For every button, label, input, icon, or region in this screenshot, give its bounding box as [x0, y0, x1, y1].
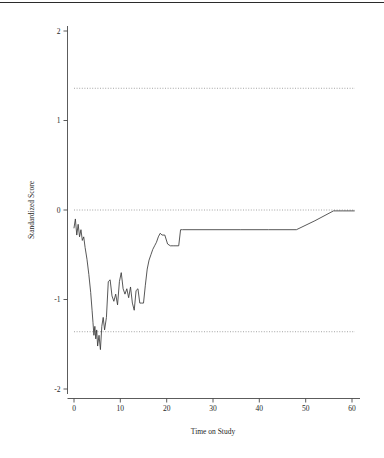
standardized-score-line [74, 211, 354, 350]
y-tick-label-1: 1 [57, 116, 61, 125]
x-tick-label-10: 10 [117, 404, 125, 413]
y-axis-group: 2 1 0 -1 -2 [54, 26, 67, 394]
x-axis-title: Time on Study [191, 427, 236, 436]
x-axis-group: 0 10 20 30 40 50 60 [68, 399, 361, 414]
x-tick-label-60: 60 [348, 404, 356, 413]
y-axis-title: Standardized Score [27, 180, 36, 239]
y-tick-label-minus1: -1 [54, 295, 60, 304]
y-tick-label-minus2: -2 [54, 385, 60, 394]
x-tick-label-0: 0 [72, 404, 76, 413]
x-tick-label-50: 50 [302, 404, 310, 413]
x-tick-label-20: 20 [163, 404, 171, 413]
x-tick-label-30: 30 [209, 404, 217, 413]
y-tick-label-2: 2 [57, 27, 61, 36]
x-tick-label-40: 40 [256, 404, 264, 413]
y-tick-label-0: 0 [57, 206, 61, 215]
figure-page: 2 1 0 -1 -2 0 10 20 30 40 50 60 Tim [0, 0, 384, 458]
standardized-score-chart: 2 1 0 -1 -2 0 10 20 30 40 50 60 Tim [0, 0, 384, 458]
